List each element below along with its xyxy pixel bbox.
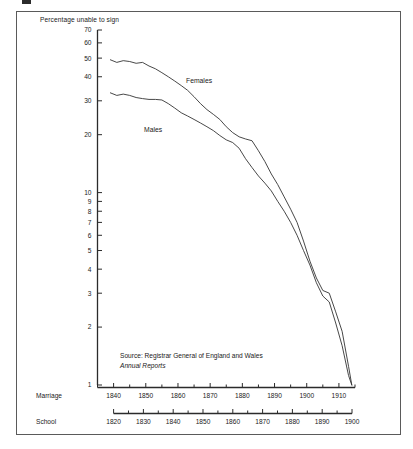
marriage-tick-label: 1860 — [161, 392, 195, 399]
series-label-females: Females — [186, 77, 212, 84]
marriage-tick-label: 1910 — [322, 392, 356, 399]
marriage-tick-label: 1840 — [97, 392, 131, 399]
marriage-tick-label: 1900 — [290, 392, 324, 399]
y-tick-label: 4 — [66, 266, 92, 273]
y-tick-label: 10 — [66, 189, 92, 196]
y-tick-label: 7 — [66, 219, 92, 226]
y-tick-label: 8 — [66, 208, 92, 215]
series-group — [110, 60, 351, 385]
source-line-2: Annual Reports — [120, 361, 263, 371]
marriage-tick-label: 1890 — [258, 392, 292, 399]
source-line-1: Source: Registrar General of England and… — [120, 351, 263, 361]
marriage-tick-label: 1880 — [225, 392, 259, 399]
axis-name-marriage: Marriage — [36, 392, 62, 399]
figure-root: Percentage unable to sign 70605040302010… — [0, 0, 413, 449]
y-tick-label: 70 — [66, 26, 92, 33]
y-tick-label: 6 — [66, 232, 92, 239]
y-tick-label: 30 — [66, 97, 92, 104]
y-tick-label: 2 — [66, 323, 92, 330]
y-tick-label: 60 — [66, 39, 92, 46]
series-line-females — [110, 60, 351, 385]
series-line-males — [110, 93, 351, 385]
y-tick-label: 1 — [66, 381, 92, 388]
marriage-tick-label: 1850 — [129, 392, 163, 399]
y-tick-label: 3 — [66, 290, 92, 297]
y-tick-label: 9 — [66, 198, 92, 205]
axis-name-school: School — [36, 418, 56, 425]
y-tick-label: 20 — [66, 131, 92, 138]
y-tick-label: 40 — [66, 73, 92, 80]
marriage-tick-label: 1870 — [193, 392, 227, 399]
school-tick-label: 1900 — [335, 418, 369, 425]
y-tick-label: 5 — [66, 247, 92, 254]
series-label-males: Males — [144, 126, 162, 133]
y-tick-label: 50 — [66, 55, 92, 62]
chart-canvas — [0, 0, 413, 449]
source-note: Source: Registrar General of England and… — [120, 351, 263, 370]
